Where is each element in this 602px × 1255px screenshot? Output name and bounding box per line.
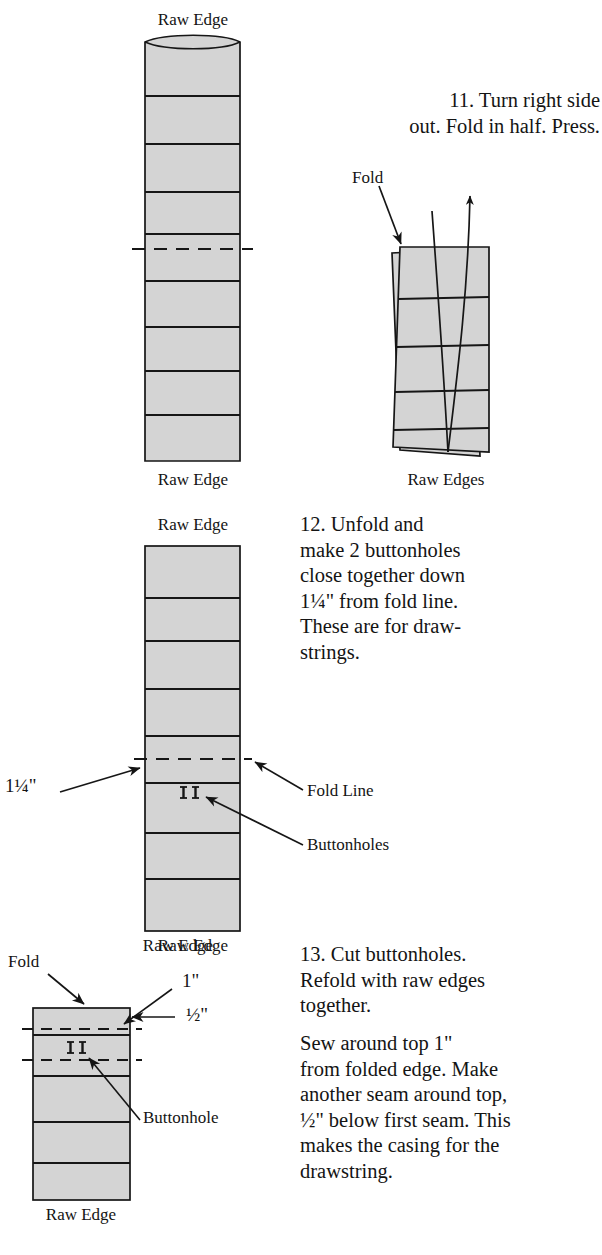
diagram-d-fabric-strip	[22, 974, 175, 1200]
one-inch-leader-arrow	[124, 989, 172, 1024]
buttonhole-label-d: Buttonhole	[143, 1108, 219, 1128]
step-13-paragraph-1: 13. Cut buttonholes. Refold with raw edg…	[300, 942, 602, 1019]
step-11-text: 11. Turn right side out. Fold in half. P…	[302, 88, 600, 139]
raw-edge-top-label-a: Raw Edge	[158, 10, 228, 30]
step-12-text: 12. Unfold and make 2 buttonholes close …	[300, 512, 600, 665]
fold-leader-arrow	[48, 974, 84, 1004]
fold-leader-arrow	[379, 186, 401, 244]
diagram-b-folded-strip	[379, 186, 489, 456]
raw-edge-bottom-label-d: Raw Edge	[46, 1205, 116, 1225]
dimension-leader-arrow	[60, 768, 140, 792]
fold-line-label: Fold Line	[307, 781, 374, 801]
dimension-label-half-inch: ½"	[186, 1004, 208, 1026]
raw-edge-bottom-label-a: Raw Edge	[158, 470, 228, 490]
fold-label-d: Fold	[8, 952, 39, 972]
diagram-a-fabric-strip	[132, 35, 253, 461]
buttonholes-label: Buttonholes	[307, 835, 389, 855]
raw-edge-top-label-d: Raw Edge	[143, 936, 213, 956]
fold-label-b: Fold	[352, 168, 383, 188]
dimension-label-one-inch: 1"	[182, 970, 199, 992]
raw-edges-label-b: Raw Edges	[408, 470, 485, 490]
diagram-c-fabric-strip	[60, 546, 303, 931]
step-13-paragraph-2: Sew around top 1" from folded edge. Make…	[300, 1031, 602, 1184]
fold-line-leader-arrow	[255, 762, 303, 790]
instruction-page: Raw Edge Raw Edge 11. Turn right side ou…	[0, 0, 602, 1255]
dimension-label-one-and-quarter: 1¼"	[5, 775, 37, 797]
raw-edge-top-label-c: Raw Edge	[158, 515, 228, 535]
